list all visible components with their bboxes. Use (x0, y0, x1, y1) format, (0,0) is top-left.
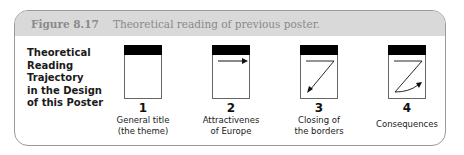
z-path-arrow-page-icon (388, 45, 426, 99)
arrow-right-icon (213, 46, 251, 100)
header-bar (124, 45, 162, 55)
step-caption: General title (the theme) (103, 115, 183, 137)
caption-line: of Europe (191, 126, 271, 137)
step-number: 1 (103, 102, 183, 115)
step-caption: Attractivenes of Europe (191, 115, 271, 137)
diagonal-arrow-page-icon (300, 45, 338, 99)
caption-line: (the theme) (103, 126, 183, 137)
caption-line: Closing of (279, 115, 359, 126)
caption-line: Consequences (367, 119, 446, 130)
step-caption: Consequences (367, 119, 446, 130)
step-4: 4 Consequences (367, 45, 446, 130)
figure-header: Figure 8.17 Theoretical reading of previ… (15, 11, 445, 36)
figure-frame: Figure 8.17 Theoretical reading of previ… (14, 10, 446, 146)
caption-line: the borders (279, 126, 359, 137)
caption-line: Attractivenes (191, 115, 271, 126)
figure-number: Figure 8.17 (31, 18, 99, 30)
step-number: 3 (279, 102, 359, 115)
step-number: 2 (191, 102, 271, 115)
step-2: 2 Attractivenes of Europe (191, 45, 271, 137)
caption-line: General title (103, 115, 183, 126)
figure-caption: Theoretical reading of previous poster. (113, 18, 320, 30)
step-caption: Closing of the borders (279, 115, 359, 137)
blank-page-icon (124, 45, 162, 99)
step-number: 4 (367, 102, 446, 115)
step-3: 3 Closing of the borders (279, 45, 359, 137)
step-1: 1 General title (the theme) (103, 45, 183, 137)
right-arrow-page-icon (212, 45, 250, 99)
z-arrow-icon (301, 46, 339, 100)
z-curve-arrow-icon (389, 46, 427, 100)
